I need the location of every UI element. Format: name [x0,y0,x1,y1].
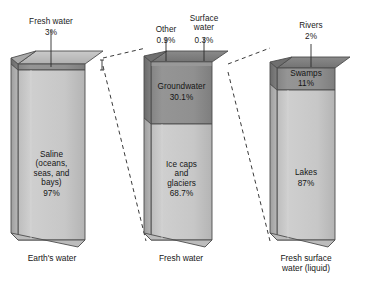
bar-caption-fresh-surface-water: Fresh surface water (liquid) [259,254,353,273]
callout-surface-water-value: 0.3% [177,36,231,45]
breakout-connector-1 [103,48,146,241]
segment-label-swamps-value: 11% [277,79,335,88]
bar-caption-fresh-water: Fresh water [136,254,226,264]
bar-earths-water [11,51,103,247]
callout-rivers-value: 2% [281,32,341,41]
bar2-top-lip [152,63,212,67]
bar1-segment-fresh-water-front [18,64,85,70]
callout-fresh-water-name: Fresh water [8,17,94,26]
water-distribution-figure: Fresh water 3% Saline (oceans, seas, and… [0,0,370,285]
callout-surface-water-name: Surface water [177,14,231,33]
segment-label-saline-name: Saline (oceans, seas, and bays) [18,150,85,188]
segment-label-saline-value: 97% [18,189,85,198]
segment-label-groundwater-name: Groundwater [147,82,216,91]
bar-caption-earths-water: Earth's water [8,254,96,264]
bar3-segment-lakes-front [277,90,335,240]
segment-label-icecaps-value: 68.7% [150,189,213,198]
breakout-connector-2 [228,48,270,241]
callout-fresh-water-value: 3% [8,28,94,37]
callout-rivers-name: Rivers [281,21,341,30]
segment-label-icecaps-name: Ice caps and glaciers [150,160,213,188]
segment-label-lakes-name: Lakes [277,168,335,177]
segment-label-lakes-value: 87% [277,179,335,188]
bar3-segment-lakes-side [270,84,277,240]
segment-label-swamps-name: Swamps [277,69,335,78]
bar1-segment-saline-side [11,64,18,240]
bar-fresh-water [144,51,228,247]
segment-label-groundwater-value: 30.1% [147,93,216,102]
